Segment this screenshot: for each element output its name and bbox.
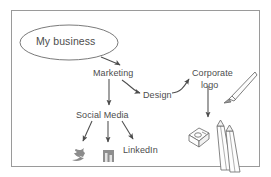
- node-label-corporate-2: logo: [201, 80, 218, 90]
- edge-marketing-to-design: [122, 80, 140, 93]
- node-label-social-media: Social Media: [76, 110, 129, 120]
- pencil-sharpener-icon: [189, 128, 209, 147]
- pencils-icon: [217, 120, 240, 172]
- edge-business-to-marketing: [101, 57, 120, 65]
- edge-social-to-twitter: [83, 121, 92, 141]
- facebook-square-icon: [103, 150, 114, 162]
- twitter-bird-icon: [72, 148, 85, 161]
- edge-design-to-corporate: [172, 79, 189, 93]
- node-label-root: My business: [36, 36, 95, 46]
- node-label-design: Design: [143, 90, 172, 100]
- node-label-corporate-1: Corporate: [192, 68, 233, 78]
- diagram-canvas: My business Marketing Design Corporate l…: [0, 0, 271, 177]
- edge-social-to-linkedin: [122, 121, 133, 139]
- node-label-marketing: Marketing: [93, 68, 133, 78]
- node-label-linkedin: LinkedIn: [123, 145, 158, 155]
